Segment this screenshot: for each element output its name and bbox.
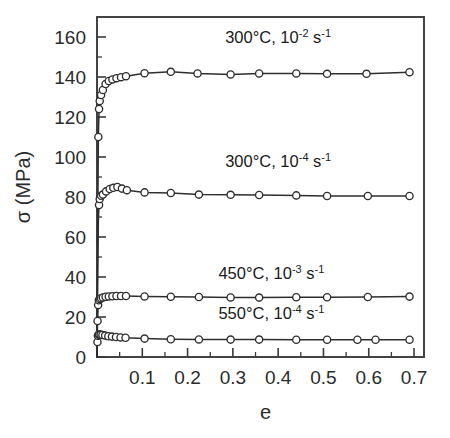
data-marker <box>364 293 371 300</box>
data-marker <box>195 336 202 343</box>
data-marker <box>195 191 202 198</box>
x-tick-label: 0.7 <box>401 367 427 388</box>
y-tick-label: 0 <box>75 347 86 368</box>
data-marker <box>406 336 413 343</box>
data-marker <box>95 133 102 140</box>
data-marker <box>167 293 174 300</box>
data-marker <box>372 336 379 343</box>
data-marker <box>167 336 174 343</box>
data-marker <box>227 336 234 343</box>
data-marker <box>141 70 148 77</box>
figure-container: 0204060801001201401600.10.20.30.40.50.60… <box>0 0 450 438</box>
y-tick-label: 40 <box>65 267 86 288</box>
series-annotation-2: 450°C, 10-3 s-1 <box>218 263 324 282</box>
y-tick-label: 60 <box>65 227 86 248</box>
x-tick-label: 0.1 <box>129 367 155 388</box>
x-tick-label: 0.4 <box>265 367 292 388</box>
x-tick-label: 0.2 <box>174 367 200 388</box>
data-marker <box>293 192 300 199</box>
y-tick-label: 100 <box>54 147 86 168</box>
y-tick-label: 160 <box>54 27 86 48</box>
data-marker <box>256 294 263 301</box>
data-marker <box>141 335 148 342</box>
data-marker <box>227 71 234 78</box>
series-annotation-3: 550°C, 10-4 s-1 <box>218 303 324 322</box>
data-marker <box>293 294 300 301</box>
data-marker <box>363 70 370 77</box>
data-marker <box>323 70 330 77</box>
data-marker <box>323 192 330 199</box>
data-marker <box>195 293 202 300</box>
x-tick-label: 0.5 <box>310 367 336 388</box>
data-marker <box>406 192 413 199</box>
y-tick-label: 120 <box>54 107 86 128</box>
data-marker <box>194 70 201 77</box>
data-marker <box>141 293 148 300</box>
data-marker <box>256 336 263 343</box>
data-marker <box>94 317 101 324</box>
data-marker <box>95 105 102 112</box>
x-axis-label: e <box>260 401 271 423</box>
data-marker <box>122 73 129 80</box>
data-marker <box>122 334 129 341</box>
data-marker <box>256 191 263 198</box>
y-tick-label: 140 <box>54 67 86 88</box>
series-annotation-1: 300°C, 10-4 s-1 <box>225 151 331 170</box>
x-tick-label: 0.6 <box>356 367 382 388</box>
data-marker <box>256 70 263 77</box>
stress-strain-chart: 0204060801001201401600.10.20.30.40.50.60… <box>0 0 450 438</box>
data-marker <box>167 189 174 196</box>
data-marker <box>293 70 300 77</box>
y-tick-label: 80 <box>65 187 86 208</box>
data-marker <box>227 294 234 301</box>
data-marker <box>122 292 129 299</box>
data-marker <box>406 69 413 76</box>
data-marker <box>227 191 234 198</box>
x-tick-label: 0.3 <box>220 367 246 388</box>
data-marker <box>354 336 361 343</box>
series-annotation-0: 300°C, 10-2 s-1 <box>225 27 331 46</box>
data-marker <box>323 336 330 343</box>
y-axis-label: σ (MPa) <box>12 151 34 223</box>
data-marker <box>167 68 174 75</box>
data-marker <box>141 189 148 196</box>
data-marker <box>293 336 300 343</box>
data-marker <box>123 187 130 194</box>
data-marker <box>406 293 413 300</box>
y-tick-label: 20 <box>65 307 86 328</box>
data-marker <box>364 192 371 199</box>
data-marker <box>323 294 330 301</box>
